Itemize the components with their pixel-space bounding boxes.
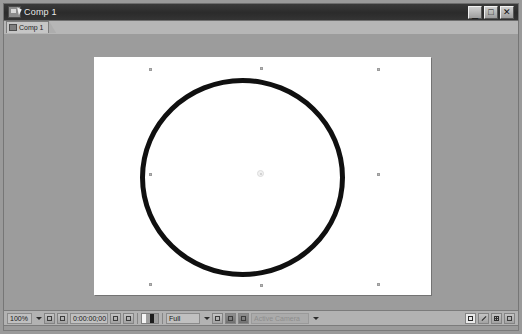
anchor-point[interactable] <box>257 170 264 177</box>
viewer-panel[interactable] <box>3 34 519 310</box>
zoom-level-dropdown[interactable]: 100% <box>7 313 32 324</box>
selection-handle[interactable] <box>260 284 263 287</box>
take-snapshot-button[interactable] <box>110 313 121 324</box>
camera-dropdown: Active Camera <box>251 313 309 324</box>
timecode-field[interactable]: 0:00:00;00 <box>70 313 108 324</box>
reset-exposure-button[interactable] <box>491 313 502 324</box>
tab-label: Comp 1 <box>19 24 44 32</box>
resolution-dropdown[interactable]: Full <box>166 313 200 324</box>
window-title: Comp 1 <box>24 7 57 17</box>
composition-viewer-window: Comp 1 _ □ ✕ Comp 1 <box>0 0 522 334</box>
minimize-button[interactable]: _ <box>468 6 482 19</box>
maximize-icon: □ <box>485 7 497 18</box>
selection-handle[interactable] <box>149 283 152 286</box>
close-icon: ✕ <box>501 7 513 18</box>
selection-handle[interactable] <box>260 67 263 70</box>
composition-icon <box>9 24 17 31</box>
chevron-down-icon[interactable] <box>204 317 210 320</box>
comp-flowchart-button[interactable] <box>478 313 489 324</box>
selection-handle[interactable] <box>149 68 152 71</box>
3d-view-button[interactable] <box>225 313 236 324</box>
close-button[interactable]: ✕ <box>500 6 514 19</box>
adjust-exposure-button[interactable] <box>504 313 515 324</box>
timecode-value: 0:00:00;00 <box>73 314 106 323</box>
title-bar[interactable]: Comp 1 _ □ ✕ <box>3 3 519 21</box>
region-of-interest-button[interactable] <box>44 313 55 324</box>
timeline-button[interactable] <box>465 313 476 324</box>
window-frame-bottom <box>3 326 519 331</box>
zoom-level-value: 100% <box>10 314 28 323</box>
minimize-icon: _ <box>469 8 481 19</box>
viewer-toolbar: 100% 0:00:00;00 Full Active Camera <box>3 310 519 326</box>
tab-corner-divider <box>49 21 56 33</box>
composition-canvas[interactable] <box>94 57 431 295</box>
window-controls: _ □ ✕ <box>468 6 518 19</box>
camera-value: Active Camera <box>254 314 300 323</box>
chevron-down-icon[interactable] <box>313 317 319 320</box>
show-snapshot-button[interactable] <box>123 313 134 324</box>
ellipse-shape[interactable] <box>140 78 345 277</box>
tab-strip: Comp 1 <box>3 21 519 34</box>
maximize-button[interactable]: □ <box>484 6 498 19</box>
composition-icon <box>8 6 21 18</box>
tab-comp-1[interactable]: Comp 1 <box>6 21 49 33</box>
toggle-mask-button[interactable] <box>57 313 68 324</box>
selection-handle[interactable] <box>377 173 380 176</box>
toolbar-separator <box>137 313 138 324</box>
resolution-value: Full <box>169 314 180 323</box>
title-bar-left: Comp 1 <box>4 6 468 18</box>
toolbar-separator <box>162 313 163 324</box>
selection-handle[interactable] <box>377 283 380 286</box>
transparency-grid-button[interactable] <box>212 313 223 324</box>
show-channel-swatch[interactable] <box>141 313 159 324</box>
selection-handle[interactable] <box>149 173 152 176</box>
channel-swatch-gray2 <box>154 314 158 323</box>
selection-handle[interactable] <box>377 68 380 71</box>
fast-previews-button[interactable] <box>238 313 249 324</box>
chevron-down-icon[interactable] <box>36 317 42 320</box>
